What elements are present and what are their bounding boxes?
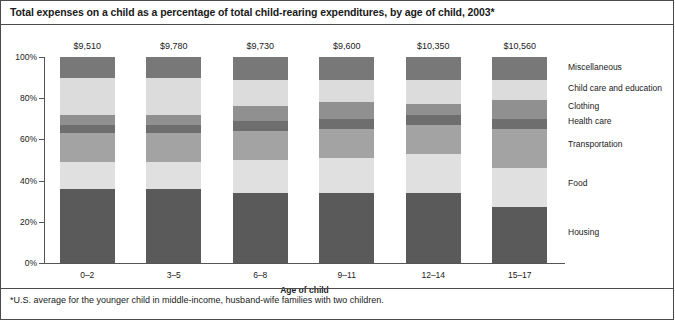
bar-segment[interactable] <box>406 80 461 105</box>
x-axis-tick-label: 12–14 <box>421 270 445 280</box>
x-axis-tick-label: 6–8 <box>253 270 267 280</box>
y-axis-tick-mark <box>39 57 44 58</box>
x-axis-tick-label: 15–17 <box>508 270 532 280</box>
y-axis-tick-mark <box>39 98 44 99</box>
bar-segment[interactable] <box>406 125 461 154</box>
legend-item: Clothing <box>568 101 599 111</box>
bar-segment[interactable] <box>492 57 547 80</box>
bar-segment[interactable] <box>233 80 288 107</box>
y-axis-tick-mark <box>39 139 44 140</box>
bar-segment[interactable] <box>146 57 201 78</box>
bar-segment[interactable] <box>492 119 547 129</box>
bar-total-label: $9,780 <box>160 41 188 51</box>
bar-segment[interactable] <box>492 129 547 168</box>
y-axis-tick-label: 0% <box>25 258 37 268</box>
bar-segment[interactable] <box>319 57 374 80</box>
bar-segment[interactable] <box>233 131 288 160</box>
legend-item: Food <box>568 178 587 188</box>
y-axis-tick-mark <box>39 263 44 264</box>
bar-stack[interactable]: $10,56015–17 <box>492 57 547 263</box>
y-axis-tick-label: 60% <box>20 134 37 144</box>
bar-segment[interactable] <box>146 125 201 133</box>
bar-segment[interactable] <box>492 207 547 263</box>
bar-segment[interactable] <box>492 80 547 101</box>
y-axis-tick-label: 80% <box>20 93 37 103</box>
bar-segment[interactable] <box>60 189 115 263</box>
bar-segment[interactable] <box>319 193 374 263</box>
bar-segment[interactable] <box>233 106 288 120</box>
x-axis-title: Age of child <box>44 285 565 295</box>
bar-segment[interactable] <box>319 129 374 158</box>
bar-segment[interactable] <box>146 189 201 263</box>
legend-item: Transportation <box>568 139 623 149</box>
chart-legend: MiscellaneousChild care and educationClo… <box>568 57 674 263</box>
bar-segment[interactable] <box>319 80 374 103</box>
bar-segment[interactable] <box>233 193 288 263</box>
bar-segment[interactable] <box>406 193 461 263</box>
legend-item: Child care and education <box>568 83 662 93</box>
bar-segment[interactable] <box>492 168 547 207</box>
bar-segment[interactable] <box>406 154 461 193</box>
plot-area: 0%20%40%60%80%100%$9,5100–2$9,7803–5$9,7… <box>44 57 563 263</box>
bar-segment[interactable] <box>146 162 201 189</box>
chart-page: Total expenses on a child as a percentag… <box>0 0 675 321</box>
bar-total-label: $9,730 <box>246 41 274 51</box>
footnote-divider <box>1 288 673 289</box>
bar-segment[interactable] <box>60 162 115 189</box>
legend-item: Miscellaneous <box>568 62 622 72</box>
bar-segment[interactable] <box>319 158 374 193</box>
y-axis-tick-label: 100% <box>15 52 37 62</box>
bar-segment[interactable] <box>60 78 115 115</box>
bar-stack[interactable]: $10,35012–14 <box>406 57 461 263</box>
bar-segment[interactable] <box>319 102 374 118</box>
y-axis-tick-mark <box>39 181 44 182</box>
bar-total-label: $9,600 <box>333 41 361 51</box>
bar-stack[interactable]: $9,5100–2 <box>60 57 115 263</box>
title-divider <box>1 24 673 25</box>
bar-total-label: $10,560 <box>503 41 536 51</box>
bar-segment[interactable] <box>146 133 201 162</box>
bar-segment[interactable] <box>233 57 288 80</box>
bar-segment[interactable] <box>233 160 288 193</box>
y-axis-tick-label: 20% <box>20 217 37 227</box>
bar-total-label: $10,350 <box>417 41 450 51</box>
x-axis-tick-label: 0–2 <box>80 270 94 280</box>
x-axis-tick-label: 3–5 <box>167 270 181 280</box>
bar-segment[interactable] <box>60 57 115 78</box>
y-axis-tick-label: 40% <box>20 176 37 186</box>
bar-segment[interactable] <box>492 100 547 119</box>
bar-stack[interactable]: $9,7803–5 <box>146 57 201 263</box>
bar-segment[interactable] <box>406 104 461 114</box>
bar-total-label: $9,510 <box>73 41 101 51</box>
y-axis-tick-mark <box>39 222 44 223</box>
bar-segment[interactable] <box>60 125 115 133</box>
x-axis-tick-label: 9–11 <box>338 270 356 280</box>
bar-stack[interactable]: $9,6009–11 <box>319 57 374 263</box>
bar-segment[interactable] <box>233 121 288 131</box>
bar-segment[interactable] <box>60 133 115 162</box>
bar-segment[interactable] <box>406 115 461 125</box>
bar-segment[interactable] <box>406 57 461 80</box>
bar-segment[interactable] <box>146 115 201 125</box>
bar-stack[interactable]: $9,7306–8 <box>233 57 288 263</box>
bar-segment[interactable] <box>146 78 201 115</box>
chart-footnote: *U.S. average for the younger child in m… <box>10 295 384 305</box>
bar-segment[interactable] <box>60 115 115 125</box>
chart-title: Total expenses on a child as a percentag… <box>10 6 495 18</box>
bar-segment[interactable] <box>319 119 374 129</box>
legend-item: Housing <box>568 227 599 237</box>
legend-item: Health care <box>568 116 611 126</box>
x-axis-line <box>44 263 565 264</box>
